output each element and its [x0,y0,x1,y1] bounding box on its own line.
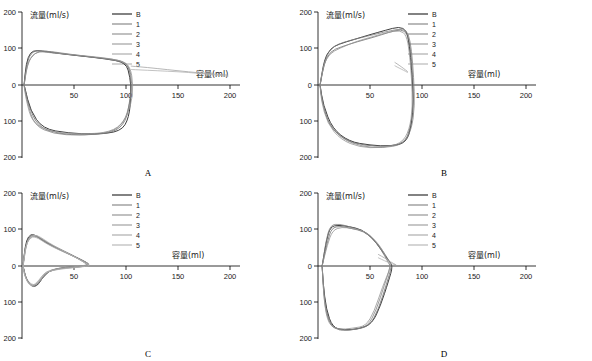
x-tick-label: 200 [520,272,533,281]
series-line [23,235,89,285]
y-tick-label: 200 [3,189,16,198]
panel-c-label: C [0,349,296,359]
y-tick-label: 0 [308,81,312,90]
y-tick-label: 200 [3,8,16,17]
legend-label: 5 [432,242,436,249]
series-line [322,224,390,330]
y-tick-label: 100 [299,44,312,53]
panel-b-label: B [296,168,592,178]
y-tick-label: 200 [299,153,312,162]
legend-label: 3 [136,41,140,48]
series-line [23,235,89,286]
panel-c-curves [23,235,89,287]
y-ticks: 200 100 0 100 200 [299,189,318,343]
legend-label: 1 [136,21,140,28]
x-axis-title: 容量(ml) [172,250,204,260]
panel-d: 200 100 0 100 200 50 100 150 200 流量(ml/s… [296,181,592,361]
series-line [320,28,413,146]
y-axis-title: 流量(ml/s) [326,10,365,20]
legend-label: 3 [136,222,140,229]
legend-label: 3 [432,222,436,229]
series-line [23,235,89,286]
y-tick-label: 100 [299,298,312,307]
legend-label: 5 [432,61,436,68]
x-tick-label: 150 [468,91,481,100]
y-tick-label: 100 [299,225,312,234]
x-tick-label: 150 [172,91,185,100]
y-tick-label: 100 [3,225,16,234]
x-ticks: 50 100 150 200 [366,85,532,100]
panel-d-label: D [296,349,592,359]
legend-label: B [432,11,437,18]
panel-a-label: A [0,168,296,178]
series-line [23,237,89,286]
x-tick-label: 150 [468,272,481,281]
series-line [320,29,414,147]
panel-b-plot: 200 100 0 100 200 50 100 150 200 流量(ml/s… [296,0,592,180]
y-tick-label: 0 [12,262,16,271]
series-line [23,236,88,287]
x-tick-label: 150 [172,272,185,281]
y-tick-label: 200 [299,334,312,343]
y-tick-label: 200 [3,153,16,162]
y-tick-label: 0 [308,262,312,271]
legend-label: 5 [136,242,140,249]
y-tick-label: 200 [299,8,312,17]
panel-a: 200 100 0 100 200 50 100 150 200 流量(ml/s… [0,0,296,180]
x-tick-label: 100 [120,272,133,281]
x-tick-label: 50 [366,91,374,100]
legend-label: 4 [432,232,436,239]
panel-a-plot: 200 100 0 100 200 50 100 150 200 流量(ml/s… [0,0,296,180]
y-ticks: 200 100 0 100 200 [3,8,22,162]
legend: B 1 2 3 4 5 [112,192,141,249]
legend-label: B [432,192,437,199]
legend-label: 4 [136,232,140,239]
x-ticks: 50 100 150 200 [70,266,236,281]
x-ticks: 50 100 150 200 [70,85,236,100]
y-tick-label: 100 [299,117,312,126]
series-line [322,227,391,331]
panel-d-curves [322,224,396,330]
x-tick-label: 50 [70,91,78,100]
x-tick-label: 100 [416,91,429,100]
panel-c-plot: 200 100 0 100 200 50 100 150 200 流量(ml/s… [0,181,296,361]
y-axis-title: 流量(ml/s) [326,191,365,201]
x-tick-label: 200 [224,272,237,281]
panel-d-plot: 200 100 0 100 200 50 100 150 200 流量(ml/s… [296,181,592,361]
legend-label: 1 [432,202,436,209]
x-axis-title: 容量(ml) [468,250,500,260]
panel-c: 200 100 0 100 200 50 100 150 200 流量(ml/s… [0,181,296,361]
y-tick-label: 200 [3,334,16,343]
x-axis-title: 容量(ml) [468,69,500,79]
legend-label: 4 [432,51,436,58]
y-ticks: 200 100 0 100 200 [299,8,318,162]
y-tick-label: 100 [3,117,16,126]
legend-label: 2 [136,31,140,38]
legend-label: B [136,11,141,18]
legend-label: 2 [136,212,140,219]
x-tick-label: 100 [416,272,429,281]
series-line [378,254,396,264]
legend-label: B [136,192,141,199]
x-tick-label: 50 [70,272,78,281]
x-tick-label: 50 [366,272,374,281]
figure-sheet: 200 100 0 100 200 50 100 150 200 流量(ml/s… [0,0,592,361]
y-axis-title: 流量(ml/s) [30,10,69,20]
legend-label: 2 [432,31,436,38]
legend-label: 2 [432,212,436,219]
y-axis-title: 流量(ml/s) [30,191,69,201]
panel-b-curves [320,28,414,148]
y-tick-label: 100 [3,298,16,307]
legend: B 1 2 3 4 5 [408,192,437,249]
x-tick-label: 200 [520,91,533,100]
legend-label: 1 [136,202,140,209]
y-tick-label: 100 [3,44,16,53]
legend-label: 1 [432,21,436,28]
panel-b: 200 100 0 100 200 50 100 150 200 流量(ml/s… [296,0,592,180]
legend-label: 3 [432,41,436,48]
y-tick-label: 0 [12,81,16,90]
x-tick-label: 200 [224,91,237,100]
y-ticks: 200 100 0 100 200 [3,189,22,343]
series-line [322,225,392,329]
y-tick-label: 200 [299,189,312,198]
